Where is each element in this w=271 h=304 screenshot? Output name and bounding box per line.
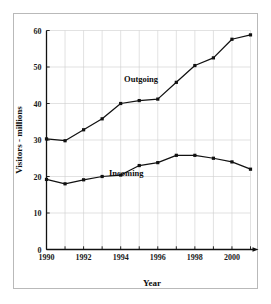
y-tick-label: 0 xyxy=(38,246,42,255)
data-point-marker xyxy=(212,157,215,160)
y-tick-label: 10 xyxy=(34,209,42,218)
x-tick-label: 1996 xyxy=(150,253,166,262)
data-point-marker xyxy=(138,164,141,167)
y-axis-title: Visitors - millions xyxy=(14,106,24,174)
data-point-marker xyxy=(119,102,122,105)
y-tick-label: 40 xyxy=(34,100,42,109)
data-point-marker xyxy=(249,33,252,36)
series-line-incoming xyxy=(47,155,251,183)
data-point-marker xyxy=(193,64,196,67)
line-chart: 199019921994199619982000 0102030405060 O… xyxy=(0,0,271,304)
data-point-marker xyxy=(101,175,104,178)
axes xyxy=(47,31,259,252)
series-outgoing xyxy=(45,33,252,142)
data-point-marker xyxy=(230,160,233,163)
data-point-marker xyxy=(101,117,104,120)
data-point-marker xyxy=(82,178,85,181)
data-point-marker xyxy=(175,81,178,84)
y-tick-label: 20 xyxy=(34,173,42,182)
data-point-marker xyxy=(249,168,252,171)
series-label-outgoing: Outgoing xyxy=(124,74,159,84)
series-line-outgoing xyxy=(47,35,251,141)
series-labels: OutgoingIncoming xyxy=(109,74,159,178)
data-point-marker xyxy=(45,178,48,181)
data-point-marker xyxy=(63,182,66,185)
x-tick-label: 1994 xyxy=(113,253,129,262)
data-point-marker xyxy=(45,137,48,140)
series-label-incoming: Incoming xyxy=(109,168,144,178)
data-point-marker xyxy=(156,161,159,164)
series-incoming xyxy=(45,154,252,186)
data-point-marker xyxy=(82,128,85,131)
data-point-marker xyxy=(212,56,215,59)
x-tick-label: 1992 xyxy=(76,253,92,262)
y-tick-label: 50 xyxy=(34,63,42,72)
x-axis-arrow xyxy=(253,247,259,251)
y-tick-labels: 0102030405060 xyxy=(34,27,42,255)
chart-figure: 199019921994199619982000 0102030405060 O… xyxy=(0,0,271,304)
data-point-marker xyxy=(193,154,196,157)
data-point-marker xyxy=(230,38,233,41)
data-point-marker xyxy=(138,99,141,102)
data-point-marker xyxy=(63,139,66,142)
x-tick-labels: 199019921994199619982000 xyxy=(39,253,240,262)
x-tick-label: 1998 xyxy=(187,253,203,262)
x-axis-title: Year xyxy=(143,278,161,288)
grid-lines xyxy=(47,31,251,250)
x-tick-label: 2000 xyxy=(224,253,240,262)
y-tick-label: 30 xyxy=(34,136,42,145)
data-point-marker xyxy=(175,154,178,157)
data-point-marker xyxy=(156,98,159,101)
y-tick-label: 60 xyxy=(34,27,42,36)
